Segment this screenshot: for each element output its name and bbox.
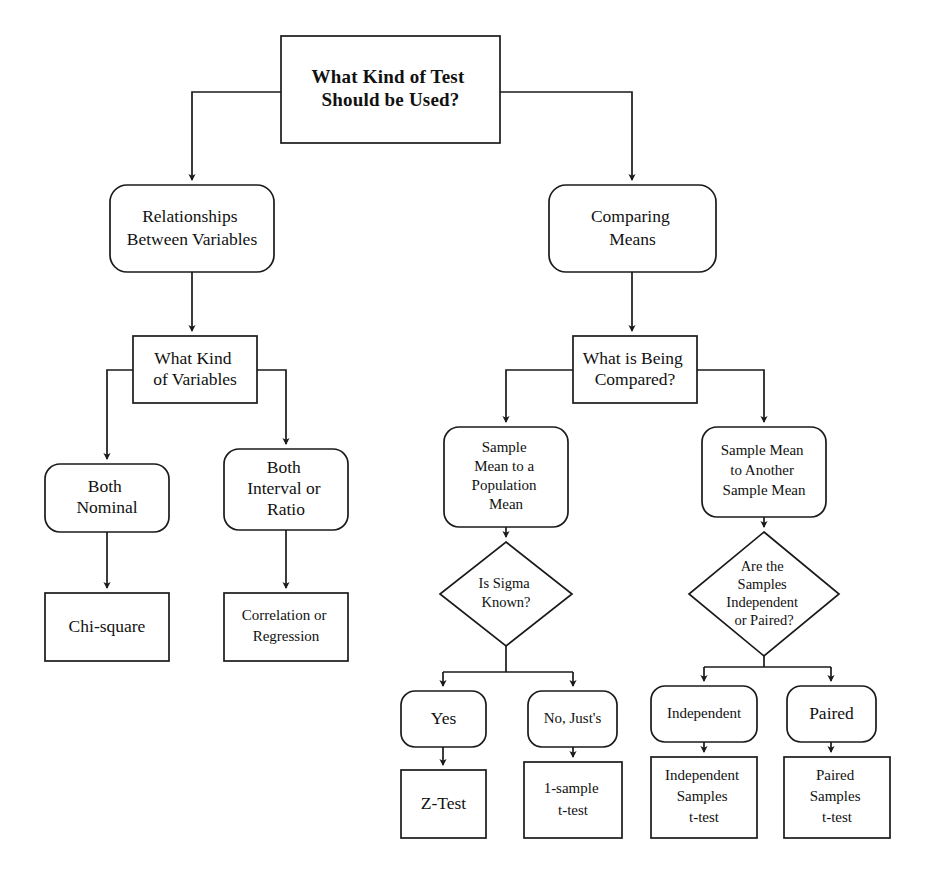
node-what-is-being-compared: What is Being Compared? — [573, 336, 697, 403]
node-both-interval-or-ratio: Both Interval or Ratio — [224, 449, 348, 530]
edge-variables-to-both-nominal — [107, 370, 133, 459]
chi-square-label: Chi-square — [69, 616, 146, 636]
node-relationships-between-variables: Relationships Between Variables — [110, 185, 274, 272]
edge-root-to-comparing-means — [500, 92, 632, 180]
flowchart-svg: What Kind of Test Should be Used? Relati… — [0, 0, 928, 874]
node-z-test: Z-Test — [401, 770, 486, 838]
node-chi-square: Chi-square — [45, 593, 169, 661]
edge-variables-to-both-interval-ratio — [257, 370, 286, 444]
yes-label: Yes — [431, 708, 457, 728]
node-no-justs: No, Just's — [528, 691, 617, 747]
node-paired: Paired — [787, 686, 876, 742]
node-both-nominal: Both Nominal — [45, 464, 169, 532]
edge-root-to-relationships — [192, 92, 281, 180]
node-comparing-means: Comparing Means — [549, 185, 716, 272]
edge-compared-to-sample-sample — [697, 370, 764, 422]
node-correlation-or-regression: Correlation or Regression — [224, 593, 348, 661]
node-one-sample-t-test: 1-sample t-test — [524, 762, 622, 838]
node-is-sigma-known: Is Sigma Known? — [440, 542, 572, 646]
what-kind-variables-label: What Kind of Variables — [153, 348, 237, 389]
z-test-label: Z-Test — [421, 793, 467, 813]
node-sample-mean-to-another-sample-mean: Sample Mean to Another Sample Mean — [702, 427, 826, 517]
node-independent-samples-t-test: Independent Samples t-test — [651, 757, 757, 838]
edge-compared-to-sample-population — [506, 370, 573, 422]
node-paired-samples-t-test: Paired Samples t-test — [784, 757, 890, 838]
node-independent: Independent — [651, 686, 757, 742]
paired-label: Paired — [809, 703, 854, 723]
correlation-regression-box — [224, 593, 348, 661]
sample-to-sample-label: Sample Mean to Another Sample Mean — [721, 442, 808, 498]
what-is-compared-label: What is Being Compared? — [583, 348, 688, 389]
node-what-kind-of-variables: What Kind of Variables — [133, 336, 257, 403]
independent-label: Independent — [667, 705, 742, 721]
node-are-samples-independent-or-paired: Are the Samples Independent or Paired? — [689, 532, 839, 656]
node-yes: Yes — [401, 691, 486, 747]
node-root-question: What Kind of Test Should be Used? — [281, 36, 500, 143]
node-sample-mean-to-population-mean: Sample Mean to a Population Mean — [444, 427, 568, 527]
one-sample-t-box — [524, 762, 622, 838]
no-justs-label: No, Just's — [544, 710, 602, 726]
flowchart-canvas: What Kind of Test Should be Used? Relati… — [0, 0, 928, 874]
